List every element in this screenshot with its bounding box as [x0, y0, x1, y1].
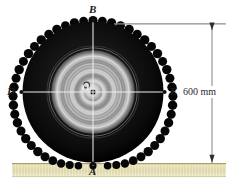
point-marker-D	[19, 90, 23, 94]
label-point-D: D	[7, 86, 15, 97]
label-point-O: O	[82, 83, 89, 94]
point-marker-B	[91, 19, 95, 23]
point-marker-E	[163, 90, 167, 94]
label-point-B: B	[89, 4, 96, 15]
label-point-E: E	[170, 86, 177, 97]
dimension-arrow-bottom	[209, 155, 214, 163]
dimension-label-600mm: 600 mm	[181, 86, 218, 98]
label-point-A: A	[89, 166, 96, 177]
dimension-arrow-top	[209, 23, 214, 31]
